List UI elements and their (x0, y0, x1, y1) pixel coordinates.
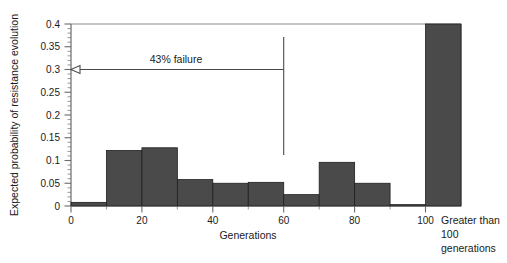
bar-5 (248, 182, 283, 206)
chart-figure: 0 0.05 0.1 0.15 0.2 0.25 (0, 0, 507, 263)
bar-3 (177, 180, 212, 206)
y-tick-label-6: 0.3 (46, 64, 60, 75)
bar-8 (355, 183, 390, 206)
x-axis-title: Generations (219, 229, 276, 241)
bar-6 (284, 195, 319, 206)
x-tick-label-1: 20 (136, 215, 148, 226)
x-tick-label-0: 0 (68, 215, 74, 226)
x-tick-label-4: 80 (349, 215, 361, 226)
y-tick-label-7: 0.35 (41, 41, 61, 52)
bar-2 (142, 148, 177, 206)
y-tick-label-4: 0.2 (46, 110, 60, 121)
y-tick-label-1: 0.05 (41, 178, 61, 189)
bar-0 (71, 202, 106, 206)
bar-1 (106, 151, 141, 206)
bar-4 (213, 183, 248, 206)
y-tick-label-0: 0 (54, 201, 60, 212)
y-axis-title: Expected probability of resistance evolu… (8, 14, 20, 216)
y-tick-label-2: 0.1 (46, 155, 60, 166)
bar-7 (319, 162, 354, 206)
x-tick-label-2: 40 (207, 215, 219, 226)
histogram-svg: 0 0.05 0.1 0.15 0.2 0.25 (0, 0, 507, 263)
x-tick-label-5: 100 (417, 215, 434, 226)
greater-than-100-line-3: generations (441, 242, 496, 254)
bar-9 (390, 205, 425, 206)
y-tick-label-3: 0.15 (41, 132, 61, 143)
greater-than-100-line-1: Greater than (441, 214, 500, 226)
y-tick-label-8: 0.4 (46, 19, 60, 30)
bar-greater-than-100 (426, 24, 461, 206)
failure-annotation-label: 43% failure (150, 53, 203, 65)
y-tick-label-5: 0.25 (41, 87, 61, 98)
x-tick-label-3: 60 (278, 215, 290, 226)
greater-than-100-line-2: 100 (441, 228, 459, 240)
